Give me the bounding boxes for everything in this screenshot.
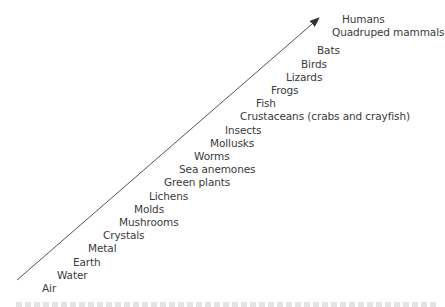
level-label: Birds bbox=[301, 58, 327, 70]
level-label: Crustaceans (crabs and crayfish) bbox=[240, 110, 410, 122]
level-label: Frogs bbox=[271, 84, 298, 96]
level-label: Crystals bbox=[103, 229, 144, 241]
level-label: Sea anemones bbox=[179, 163, 255, 175]
level-label: Molds bbox=[134, 203, 164, 215]
level-label: Mushrooms bbox=[119, 216, 179, 228]
level-label: Humans bbox=[342, 13, 385, 25]
level-label: Worms bbox=[194, 150, 230, 162]
level-label: Bats bbox=[317, 44, 340, 56]
level-label: Quadruped mammals bbox=[332, 26, 444, 38]
level-label: Green plants bbox=[164, 176, 230, 188]
level-label: Lichens bbox=[149, 190, 188, 202]
scale-of-nature-diagram: AirWaterEarthMetalCrystalsMushroomsMolds… bbox=[0, 0, 445, 307]
level-label: Mollusks bbox=[210, 137, 254, 149]
level-label: Insects bbox=[225, 124, 261, 136]
level-label: Water bbox=[57, 269, 88, 281]
level-label: Earth bbox=[73, 256, 101, 268]
level-label: Air bbox=[42, 282, 56, 294]
level-label: Lizards bbox=[286, 71, 322, 83]
figure-caption-cutoff bbox=[16, 302, 436, 307]
level-label: Metal bbox=[88, 242, 117, 254]
level-label: Fish bbox=[256, 97, 276, 109]
